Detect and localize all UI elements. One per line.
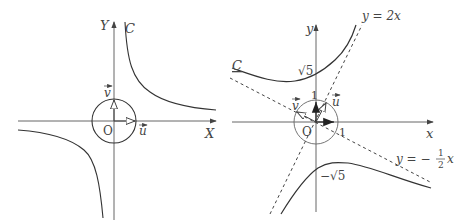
lower-intercept-label: −√5 <box>320 169 345 183</box>
x-axis-label: X <box>204 126 215 141</box>
origin-label: O <box>302 125 312 139</box>
svg-text:2: 2 <box>438 160 444 170</box>
asymptote-2x-label: y = 2x <box>361 9 401 23</box>
x-axis-label: x <box>426 126 434 141</box>
tick-x-1-label: 1 <box>339 126 346 139</box>
curve-label: C <box>232 58 242 73</box>
vector-v <box>297 112 316 122</box>
svg-text:u: u <box>332 95 340 109</box>
y-axis-label: y <box>305 21 314 36</box>
vector-u <box>316 103 326 122</box>
hyperbola-branch-lower <box>18 130 103 218</box>
hyperbola-branch-upper <box>125 22 216 110</box>
tick-y-1-label: 1 <box>311 89 318 102</box>
svg-text:x: x <box>447 152 454 166</box>
svg-text:v: v <box>104 86 111 100</box>
vector-v-label: v <box>292 99 300 113</box>
asymptote-neg-half-x-label: y = − 1 2 x <box>395 148 454 170</box>
vector-u-label: u <box>332 95 340 109</box>
curve-label: C <box>125 21 135 36</box>
svg-text:1: 1 <box>438 148 444 158</box>
upper-intercept-label: √5 <box>298 64 313 78</box>
left-diagram: Y C X O v u <box>18 18 216 220</box>
vector-u-label: u <box>139 124 147 138</box>
y-axis-label: Y <box>100 18 110 33</box>
diagram-canvas: Y C X O v u y x C O 1 1 <box>0 0 463 222</box>
vector-v-label: v <box>104 86 112 100</box>
asymptote-y-neg-half-x <box>230 78 432 183</box>
svg-text:y = −: y = − <box>395 152 431 166</box>
svg-text:v: v <box>292 99 299 113</box>
right-diagram: y x C O 1 1 √5 −√5 v u y = 2x y = − 1 2 … <box>230 9 454 214</box>
svg-text:u: u <box>139 124 147 138</box>
origin-label: O <box>103 124 113 138</box>
hyperbola-branch-upper <box>232 25 356 82</box>
